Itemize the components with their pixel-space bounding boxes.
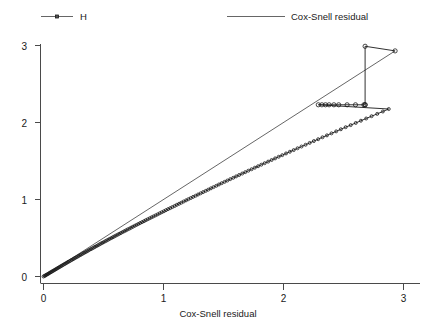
y-tick-1: 1 [21, 195, 40, 206]
legend-marker-h-icon [56, 15, 59, 18]
y-tick-0: 0 [21, 272, 40, 283]
axis-y: 0 1 2 3 [21, 41, 40, 284]
y-tick-label-3: 3 [21, 41, 27, 52]
y-tick-label-0: 0 [21, 272, 27, 283]
x-tick-2: 2 [281, 284, 287, 305]
y-tick-3: 3 [21, 41, 40, 52]
y-tick-2: 2 [21, 118, 40, 129]
x-axis-title: Cox-Snell residual [179, 308, 256, 319]
legend-entry-h[interactable]: H [41, 11, 87, 22]
data-series-path [44, 46, 396, 276]
reference-line-series [44, 51, 396, 277]
cox-snell-qq-plot: H Cox-Snell residual 0 1 2 [0, 0, 423, 325]
reference-line-path [44, 51, 396, 277]
x-tick-1: 1 [161, 284, 167, 305]
axis-x: 0 1 2 3 Cox-Snell residual [41, 284, 421, 320]
y-tick-label-1: 1 [21, 195, 27, 206]
chart-canvas: H Cox-Snell residual 0 1 2 [0, 0, 423, 325]
x-tick-label-3: 3 [401, 293, 407, 304]
legend-label-h: H [80, 11, 87, 22]
x-tick-label-2: 2 [281, 293, 287, 304]
y-tick-label-2: 2 [21, 118, 27, 129]
legend-label-coxsnell: Cox-Snell residual [291, 11, 368, 22]
x-tick-0: 0 [41, 284, 47, 305]
x-tick-label-0: 0 [41, 293, 47, 304]
chart-legend: H Cox-Snell residual [41, 11, 368, 22]
x-tick-label-1: 1 [161, 293, 167, 304]
x-tick-3: 3 [401, 284, 407, 305]
legend-entry-coxsnell[interactable]: Cox-Snell residual [227, 11, 368, 22]
